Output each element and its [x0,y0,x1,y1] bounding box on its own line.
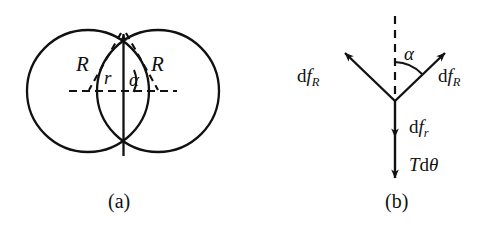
label-df-r: dfr [409,117,429,139]
label-df-R-right: dfR [438,66,460,88]
label-alpha-panel-b: α [404,44,414,63]
panel-a-graphics [27,30,219,156]
label-df-r-d: d [409,116,419,137]
label-T-d-theta: Tdθ [409,155,438,174]
label-radius-right: R [151,54,164,75]
label-df-R-right-d: d [438,65,448,86]
label-r: r [104,68,111,87]
caption-panel-a: (a) [108,191,130,211]
vector-df-R-left [345,53,395,101]
figure-canvas: R R r α (a) dfR dfR dfr Tdθ α (b) [0,0,491,236]
label-df-R-left: dfR [297,66,319,88]
label-T-d-theta-T: T [409,154,420,175]
label-alpha-panel-a: α [129,70,139,89]
label-df-R-right-sub: R [453,75,461,89]
label-T-d-theta-d: d [420,154,430,175]
label-radius-left: R [76,54,89,75]
label-df-r-sub: r [424,126,429,140]
caption-panel-b: (b) [385,191,408,211]
label-df-R-left-sub: R [312,75,320,89]
label-df-R-left-d: d [297,65,307,86]
label-T-d-theta-theta: θ [429,154,438,175]
